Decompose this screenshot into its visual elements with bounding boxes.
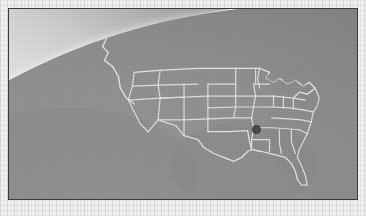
image-plate-frame <box>8 8 358 200</box>
location-marker[interactable] <box>252 125 261 134</box>
figure-root <box>0 0 366 216</box>
image-plate <box>9 9 357 199</box>
earth-limb-map-graphic <box>9 9 357 199</box>
